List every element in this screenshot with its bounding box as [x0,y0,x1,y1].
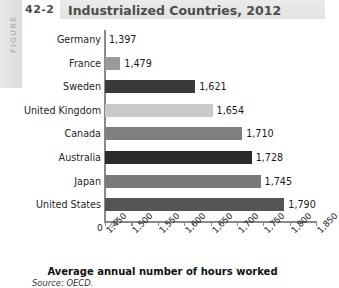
bar-category-label: Canada [64,127,101,141]
bar-row: Japan1,745 [0,174,325,198]
bar-category-label: Australia [59,151,101,165]
bar [105,151,252,164]
bar-value-label: 1,621 [199,80,226,93]
bar [105,104,213,117]
x-axis-title: Average annual number of hours worked [0,266,325,277]
bar-value-label: 1,728 [256,151,283,164]
bar [105,175,261,188]
bar-category-label: France [69,57,101,71]
bar-category-label: Germany [57,33,101,47]
figure-number: 42-2 [25,3,55,16]
bar-value-label: 1,745 [265,175,292,188]
bar-row: Germany1,397 [0,32,325,56]
figure-title: Industrialized Countries, 2012 [68,3,281,18]
bar-category-label: United States [36,198,101,212]
bar-category-label: Japan [74,175,101,189]
bar-category-label: Sweden [63,80,101,94]
bar [105,127,242,140]
x-axis-zero-label: 0 [97,223,103,233]
bar [105,80,195,93]
bar [105,198,284,211]
source-note: Source: OECD. [32,278,93,288]
bar-value-label: 1,654 [217,104,244,117]
bar-category-label: United Kingdom [24,104,101,118]
bar-value-label: 1,790 [288,198,315,211]
bar-row: Australia1,728 [0,150,325,174]
bar-value-label: 1,397 [109,33,136,46]
bar [105,57,120,70]
bar-value-label: 1,710 [246,127,273,140]
bar-row: United Kingdom1,654 [0,103,325,127]
bar-value-label: 1,479 [124,57,151,70]
bar-row: France1,479 [0,56,325,80]
bar-row: Canada1,710 [0,126,325,150]
figure-title-bar: Industrialized Countries, 2012 [60,0,325,19]
bar-row: Sweden1,621 [0,79,325,103]
chart-plot-area: Germany1,397France1,479Sweden1,621United… [0,22,325,247]
